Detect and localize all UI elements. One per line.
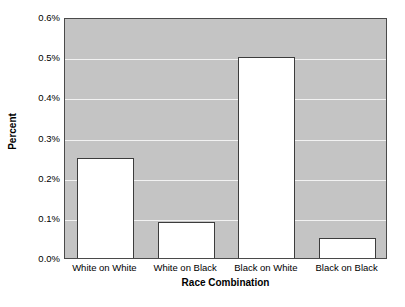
y-axis-title: Percent [7, 97, 18, 167]
bars-group [65, 19, 386, 258]
x-axis-tick-labels: White on WhiteWhite on BlackBlack on Whi… [64, 262, 387, 278]
y-axis-tick-label: 0.4% [22, 93, 60, 103]
bar [319, 238, 376, 258]
y-axis-tick-label: 0.6% [22, 13, 60, 23]
plot-area [64, 18, 387, 259]
x-axis-tick-label: White on Black [145, 262, 226, 274]
x-axis-title: Race Combination [64, 277, 387, 288]
x-axis-tick-label: Black on White [226, 262, 307, 274]
y-axis-tick-label: 0.3% [22, 134, 60, 144]
x-axis-tick-label: White on White [64, 262, 145, 274]
y-axis-tick-label: 0.0% [22, 254, 60, 264]
x-axis-tick-label: Black on Black [306, 262, 387, 274]
bar-chart: Percent 0.0%0.1%0.2%0.3%0.4%0.5%0.6% Whi… [0, 0, 405, 307]
bar [158, 222, 215, 258]
bar [77, 158, 134, 258]
y-axis-tick-label: 0.1% [22, 214, 60, 224]
y-axis-tick-label: 0.5% [22, 53, 60, 63]
y-axis-tick-labels: 0.0%0.1%0.2%0.3%0.4%0.5%0.6% [22, 0, 60, 307]
bar [238, 57, 295, 258]
y-axis-tick-label: 0.2% [22, 174, 60, 184]
